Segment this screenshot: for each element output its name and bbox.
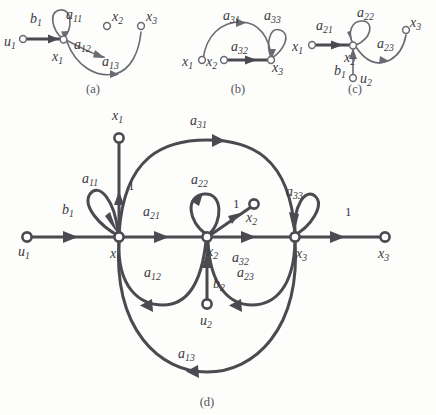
label-a31-b: a31 (223, 8, 240, 25)
node-u2-d (202, 299, 211, 308)
label-a12-a: a12 (74, 37, 91, 54)
label-x3-out-d: x3 (377, 246, 389, 263)
label-x1-a: x1 (51, 49, 63, 66)
caption-d: (d) (200, 395, 215, 409)
label-u2-d: u2 (200, 313, 212, 330)
arrowhead-a13-a (110, 70, 119, 78)
arrowhead-a32-b (245, 56, 257, 65)
arrowhead-a13-d (186, 365, 199, 378)
subfigure-b: x1 x2 x3 a31 a33 a32 (b) (181, 8, 286, 96)
node-x1-out-d (114, 133, 123, 142)
label-x2-a: x2 (111, 9, 123, 26)
label-x2-out-d: x2 (245, 210, 257, 227)
edge-a11-d (88, 190, 119, 236)
arrowhead-a31-d (212, 134, 225, 147)
label-a31-d: a31 (190, 113, 207, 130)
subfigure-c: x1 x2 x3 u2 a21 a22 a23 b1 (c) (291, 5, 421, 96)
arrowhead-b1-d (63, 231, 78, 243)
label-x3-c: x3 (409, 15, 421, 32)
label-a22-c: a22 (357, 5, 374, 22)
label-b1-d: b1 (62, 202, 74, 219)
arrowhead-a32-d (241, 231, 256, 243)
label-unit-gain-x3: 1 (345, 204, 352, 219)
node-x3-d (290, 232, 299, 241)
label-a13-a: a13 (102, 54, 119, 71)
node-x3-out-d (380, 232, 389, 241)
node-x2-c (350, 42, 357, 49)
label-x3-a: x3 (145, 9, 157, 26)
label-x1-out-d: x1 (111, 108, 123, 125)
label-unit-gain-x1: 1 (128, 178, 135, 193)
arrowhead-a21-c (331, 41, 343, 50)
subfigure-d: u1 x1 x2 x3 x1 x2 x3 u2 b1 a11 a21 a31 a… (18, 108, 390, 409)
label-x1-b: x1 (181, 54, 193, 71)
label-a13-d: a13 (178, 346, 195, 363)
label-a21-d: a21 (143, 204, 160, 221)
label-a32-b: a32 (231, 39, 248, 56)
node-x1-a (60, 36, 67, 43)
label-x3-node-d: x3 (295, 246, 307, 263)
signal-flow-graph-figure: u1 x1 x2 x3 b1 a11 a12 a13 (a) x1 x2 x3 … (0, 0, 436, 415)
label-x3-b: x3 (271, 60, 283, 77)
arrowhead-x3-unit-gain (330, 231, 345, 243)
label-u1-a: u1 (4, 34, 16, 51)
caption-b: (b) (231, 82, 246, 96)
node-x1-b (199, 57, 206, 64)
edge-unit-gain-x2 (209, 207, 251, 236)
label-x1-c: x1 (291, 39, 303, 56)
node-x2-b (221, 57, 228, 64)
node-x1-d (114, 232, 123, 241)
label-a21-c: a21 (316, 18, 333, 35)
subfigure-a: u1 x1 x2 x3 b1 a11 a12 a13 (a) (4, 7, 157, 96)
label-a23-d: a23 (237, 265, 254, 282)
label-a11-d: a11 (82, 171, 98, 188)
arrowhead-b1-a (48, 35, 59, 44)
node-x1-c (309, 42, 316, 49)
node-u1-a (20, 36, 27, 43)
node-x2-a (104, 23, 111, 30)
arrowhead-a21-d (154, 231, 169, 243)
label-a33-b: a33 (264, 8, 281, 25)
caption-a: (a) (86, 82, 100, 96)
node-x3-a (138, 23, 145, 30)
node-u1-d (22, 232, 31, 241)
label-a23-c: a23 (377, 36, 394, 53)
label-a22-d: a22 (191, 172, 208, 189)
label-unit-gain-x2: 1 (233, 196, 240, 211)
signal-flow-graph-canvas: u1 x1 x2 x3 b1 a11 a12 a13 (a) x1 x2 x3 … (0, 0, 436, 415)
label-b1-a: b1 (30, 11, 42, 28)
arrowhead-unit-gain-x1 (114, 191, 124, 205)
label-b2-d: b2 (213, 276, 225, 293)
label-u1-d: u1 (18, 244, 30, 261)
node-x3-c (403, 27, 410, 34)
node-u2-c (350, 75, 357, 82)
arrowhead-a33-d (289, 212, 299, 233)
label-a33-d: a33 (286, 184, 303, 201)
node-x2-d (202, 232, 211, 241)
label-b1-c: b1 (334, 63, 346, 80)
label-a12-d: a12 (144, 265, 161, 282)
node-x2-out-d (249, 199, 258, 208)
edge-a12-d (119, 241, 206, 305)
label-a11-a: a11 (66, 7, 82, 24)
label-x2-b: x2 (205, 54, 217, 71)
label-x2-node-d: x2 (206, 244, 218, 261)
caption-c: (c) (348, 82, 362, 96)
